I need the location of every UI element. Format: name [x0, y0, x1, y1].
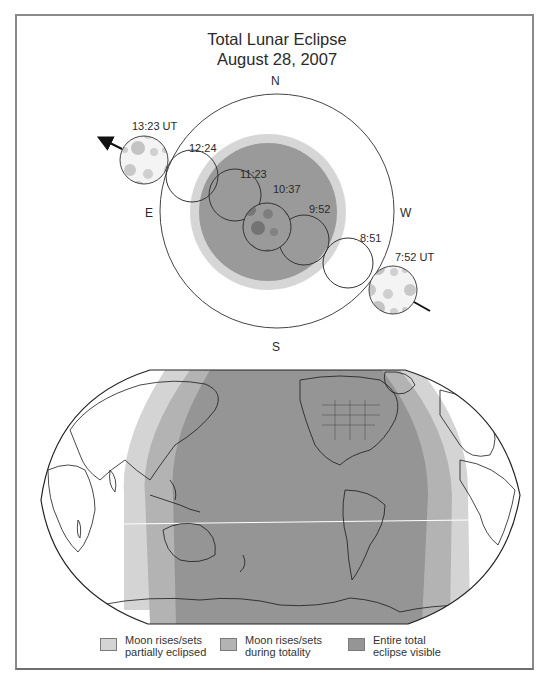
moon-start-7-52	[369, 266, 417, 314]
compass-east: E	[145, 206, 153, 220]
arrow-entry-icon	[414, 302, 430, 311]
moon-end-13-23	[120, 136, 168, 184]
world-visibility-map	[30, 360, 530, 630]
legend-item-partial: Moon rises/sets partially eclipsed	[100, 634, 206, 658]
legend-label-totality: Moon rises/sets during totality	[245, 634, 322, 658]
legend-label-partial: Moon rises/sets partially eclipsed	[125, 634, 206, 658]
zone-entire-total	[172, 370, 428, 624]
compass-west: W	[400, 206, 412, 220]
legend-swatch-partial	[100, 638, 117, 651]
time-label-11-23: 11:23	[240, 168, 267, 180]
compass-south: S	[272, 340, 280, 354]
legend-swatch-entire	[348, 638, 365, 651]
legend-swatch-totality	[220, 638, 237, 651]
arrow-exit-icon	[104, 140, 122, 149]
legend-item-totality: Moon rises/sets during totality	[220, 634, 322, 658]
legend-item-entire: Entire total eclipse visible	[348, 634, 441, 658]
time-label-9-52: 9:52	[309, 203, 330, 215]
map-legend: Moon rises/sets partially eclipsed Moon …	[0, 634, 554, 664]
eclipse-diagram: 13:23 UT 12:24 11:23 10:37 9:52 8:51 7:5…	[0, 0, 554, 678]
time-label-8-51: 8:51	[360, 232, 381, 244]
legend-label-entire: Entire total eclipse visible	[373, 634, 441, 658]
moon-position-8-51	[323, 238, 373, 288]
time-label-12-24: 12:24	[189, 142, 217, 154]
compass-north: N	[271, 74, 280, 88]
moon-greatest-eclipse	[243, 203, 291, 251]
time-label-10-37: 10:37	[273, 183, 301, 195]
time-label-7-52: 7:52 UT	[395, 251, 434, 263]
time-label-13-23: 13:23 UT	[132, 120, 178, 132]
